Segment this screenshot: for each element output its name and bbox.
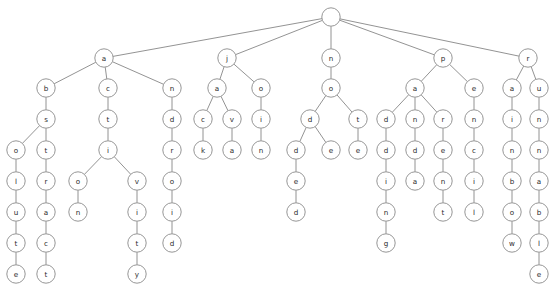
trie-node[interactable]: s bbox=[37, 110, 55, 128]
trie-node[interactable]: t bbox=[128, 234, 146, 252]
trie-node[interactable]: o bbox=[163, 172, 181, 190]
trie-node[interactable]: u bbox=[530, 79, 548, 97]
trie-node-circle bbox=[37, 265, 55, 283]
trie-node[interactable]: r bbox=[519, 49, 537, 67]
trie-node[interactable]: a bbox=[406, 172, 424, 190]
trie-node[interactable]: i bbox=[465, 172, 483, 190]
trie-node[interactable]: a bbox=[406, 79, 424, 97]
trie-node-root[interactable] bbox=[322, 8, 340, 26]
trie-node[interactable]: o bbox=[503, 203, 521, 221]
trie-node-circle bbox=[218, 49, 236, 67]
trie-node[interactable]: n bbox=[434, 172, 452, 190]
trie-node-circle bbox=[406, 172, 424, 190]
trie-node[interactable]: a bbox=[530, 172, 548, 190]
trie-node[interactable]: l bbox=[530, 234, 548, 252]
trie-node[interactable]: n bbox=[322, 49, 340, 67]
trie-node[interactable]: l bbox=[7, 172, 25, 190]
trie-node[interactable]: r bbox=[434, 110, 452, 128]
trie-node[interactable]: i bbox=[163, 203, 181, 221]
trie-node[interactable]: a bbox=[208, 79, 226, 97]
trie-node[interactable]: g bbox=[377, 234, 395, 252]
trie-node[interactable]: i bbox=[503, 110, 521, 128]
trie-node[interactable]: u bbox=[7, 203, 25, 221]
trie-node[interactable]: w bbox=[503, 234, 521, 252]
trie-node-circle bbox=[530, 79, 548, 97]
trie-node[interactable]: d bbox=[377, 141, 395, 159]
trie-node-circle bbox=[252, 79, 270, 97]
trie-node-circle bbox=[503, 234, 521, 252]
trie-node[interactable]: d bbox=[163, 110, 181, 128]
trie-node-circle bbox=[519, 49, 537, 67]
trie-node[interactable]: c bbox=[37, 234, 55, 252]
trie-node[interactable]: t bbox=[434, 203, 452, 221]
trie-node[interactable]: n bbox=[69, 203, 87, 221]
trie-node[interactable]: v bbox=[223, 110, 241, 128]
trie-node[interactable]: r bbox=[37, 172, 55, 190]
trie-node[interactable]: c bbox=[99, 79, 117, 97]
trie-node[interactable]: e bbox=[322, 141, 340, 159]
trie-node[interactable]: i bbox=[252, 110, 270, 128]
trie-node[interactable]: b bbox=[530, 203, 548, 221]
trie-node[interactable]: b bbox=[37, 79, 55, 97]
trie-node[interactable]: t bbox=[37, 141, 55, 159]
trie-node[interactable]: o bbox=[322, 79, 340, 97]
trie-node[interactable]: p bbox=[434, 49, 452, 67]
trie-node[interactable]: d bbox=[163, 234, 181, 252]
trie-node[interactable]: d bbox=[377, 110, 395, 128]
trie-node[interactable]: j bbox=[218, 49, 236, 67]
trie-edge bbox=[114, 157, 130, 175]
trie-node[interactable]: t bbox=[349, 110, 367, 128]
trie-node-circle bbox=[37, 203, 55, 221]
trie-node[interactable]: e bbox=[434, 141, 452, 159]
trie-node[interactable]: b bbox=[503, 172, 521, 190]
trie-edge bbox=[112, 62, 163, 85]
trie-node[interactable]: n bbox=[406, 110, 424, 128]
trie-edge bbox=[315, 96, 326, 112]
trie-node[interactable]: o bbox=[7, 141, 25, 159]
trie-node[interactable]: n bbox=[163, 79, 181, 97]
trie-node[interactable]: o bbox=[69, 172, 87, 190]
trie-node-circle bbox=[95, 49, 113, 67]
trie-node[interactable]: d bbox=[287, 203, 305, 221]
trie-node[interactable]: k bbox=[194, 141, 212, 159]
trie-node[interactable]: n bbox=[377, 203, 395, 221]
trie-node[interactable]: a bbox=[223, 141, 241, 159]
trie-node[interactable]: e bbox=[287, 172, 305, 190]
trie-node[interactable]: n bbox=[252, 141, 270, 159]
trie-node[interactable]: n bbox=[465, 110, 483, 128]
trie-node[interactable]: d bbox=[406, 141, 424, 159]
trie-node[interactable]: c bbox=[465, 141, 483, 159]
trie-node-circle bbox=[128, 203, 146, 221]
trie-node-circle bbox=[377, 234, 395, 252]
trie-node[interactable]: e bbox=[7, 265, 25, 283]
trie-edge bbox=[234, 64, 254, 82]
trie-node[interactable]: v bbox=[128, 172, 146, 190]
trie-node[interactable]: d bbox=[287, 141, 305, 159]
trie-node[interactable]: e bbox=[349, 141, 367, 159]
trie-node[interactable]: t bbox=[99, 110, 117, 128]
trie-node-circle bbox=[69, 203, 87, 221]
trie-node-circle bbox=[530, 172, 548, 190]
trie-node[interactable]: n bbox=[530, 110, 548, 128]
trie-node[interactable]: i bbox=[128, 203, 146, 221]
trie-edge bbox=[220, 67, 224, 80]
trie-node[interactable]: a bbox=[37, 203, 55, 221]
trie-node[interactable]: d bbox=[301, 110, 319, 128]
trie-node-circle bbox=[301, 110, 319, 128]
trie-node[interactable]: i bbox=[99, 141, 117, 159]
trie-node[interactable]: l bbox=[465, 203, 483, 221]
trie-node-circle bbox=[434, 141, 452, 159]
trie-node[interactable]: c bbox=[194, 110, 212, 128]
trie-node[interactable]: t bbox=[7, 234, 25, 252]
trie-node[interactable]: n bbox=[530, 141, 548, 159]
trie-node[interactable]: e bbox=[530, 265, 548, 283]
trie-node[interactable]: o bbox=[252, 79, 270, 97]
trie-node[interactable]: r bbox=[163, 141, 181, 159]
trie-node[interactable]: t bbox=[37, 265, 55, 283]
trie-node[interactable]: a bbox=[95, 49, 113, 67]
trie-node[interactable]: a bbox=[503, 79, 521, 97]
trie-node[interactable]: n bbox=[503, 141, 521, 159]
trie-node[interactable]: e bbox=[465, 79, 483, 97]
trie-node[interactable]: y bbox=[128, 265, 146, 283]
trie-node[interactable]: i bbox=[377, 172, 395, 190]
